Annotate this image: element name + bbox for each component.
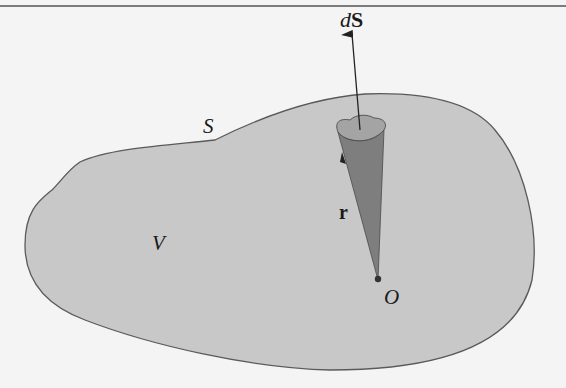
label-position-r: r [339,201,348,223]
figure-canvas: dS S V r O [0,0,566,388]
label-origin-O: O [384,285,399,309]
surface-region [25,94,534,370]
diagram-svg: dS S V r O [0,0,566,388]
label-volume-V: V [152,231,167,255]
origin-point [375,276,381,282]
label-surface-S: S [203,114,214,138]
label-dS: dS [340,7,363,32]
